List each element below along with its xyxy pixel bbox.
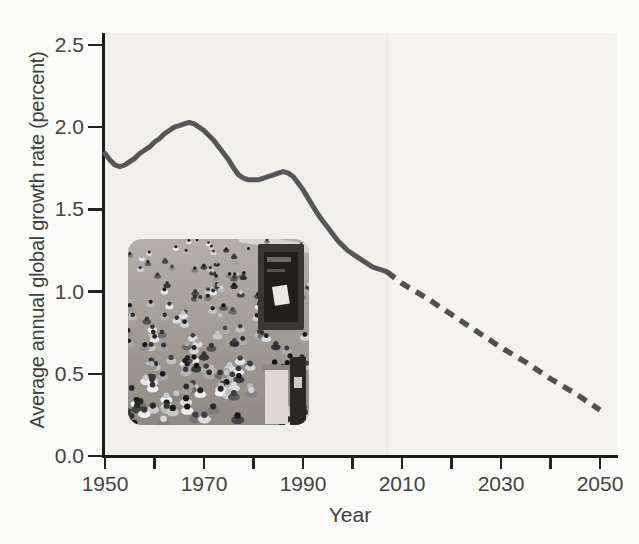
crowd-photo [128, 239, 309, 425]
growth-rate-curves [0, 0, 639, 544]
population-growth-rate-figure: 1950197019902010203020500.00.51.01.52.02… [0, 0, 639, 544]
kiosk [258, 244, 304, 330]
y-axis-title: Average annual global growth rate (perce… [26, 52, 49, 429]
crowd-photo-content [128, 239, 309, 425]
podium [262, 357, 306, 425]
projected-growth-line [387, 272, 600, 410]
x-axis-title: Year [310, 503, 390, 527]
